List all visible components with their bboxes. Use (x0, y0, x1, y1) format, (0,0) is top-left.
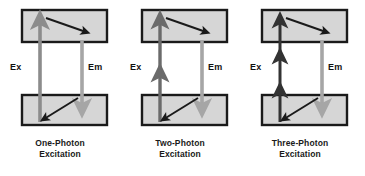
ground-state-box (142, 95, 227, 125)
panel-one-photon: Ex Em One-Photon Excitation (0, 0, 120, 176)
excitation-label: Ex (10, 62, 21, 72)
ground-state-box (22, 95, 107, 125)
caption-line-2: Excitation (0, 149, 120, 160)
caption-line-2: Excitation (120, 149, 240, 160)
emission-label: Em (88, 62, 102, 72)
excited-state-box (22, 10, 107, 42)
caption-line-2: Excitation (240, 149, 360, 160)
panel-caption: One-Photon Excitation (0, 138, 120, 160)
excited-state-box (142, 10, 227, 42)
panel-caption: Two-Photon Excitation (120, 138, 240, 160)
ground-state-box (262, 95, 347, 125)
panel-three-photon: Ex Em Three-Photon Excitation (240, 0, 360, 176)
excitation-label: Ex (250, 62, 261, 72)
excited-state-box (262, 10, 347, 42)
caption-line-1: Three-Photon (240, 138, 360, 149)
panel-two-photon: Ex Em Two-Photon Excitation (120, 0, 240, 176)
panel-caption: Three-Photon Excitation (240, 138, 360, 160)
caption-line-1: Two-Photon (120, 138, 240, 149)
excitation-label: Ex (130, 62, 141, 72)
emission-label: Em (328, 62, 342, 72)
emission-label: Em (208, 62, 222, 72)
caption-line-1: One-Photon (0, 138, 120, 149)
photon-excitation-figure: Ex Em One-Photon Excitation (0, 0, 365, 176)
